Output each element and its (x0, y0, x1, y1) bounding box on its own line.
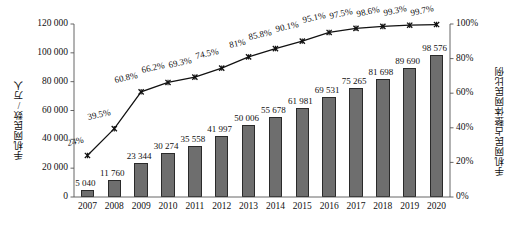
chart-figure: 手机网民数/万人 手机网民占整体网民比例 020 00040 00060 000… (0, 0, 509, 239)
chart-axes-and-line (0, 0, 509, 239)
line-markers (85, 22, 439, 158)
